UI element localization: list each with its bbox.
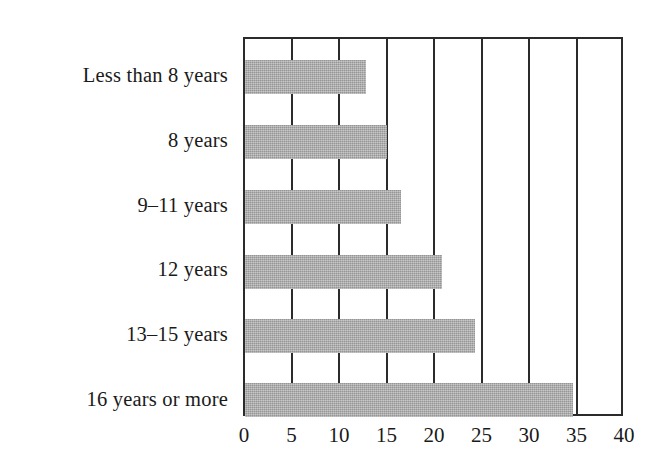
x-tick-label-8: 40 <box>604 425 644 446</box>
gridline-20 <box>433 39 435 414</box>
bar-16-years-or-more <box>245 383 573 417</box>
x-tick-label-4: 20 <box>414 425 454 446</box>
gridline-10 <box>338 39 340 414</box>
x-tick-label-3: 15 <box>367 425 407 446</box>
gridline-30 <box>528 39 530 414</box>
category-label-5: 16 years or more <box>8 389 228 410</box>
x-tick-label-2: 10 <box>319 425 359 446</box>
x-tick-label-6: 30 <box>509 425 549 446</box>
category-label-0: Less than 8 years <box>8 65 228 86</box>
bar-less-than-8-years <box>245 60 366 94</box>
category-label-1: 8 years <box>8 130 228 151</box>
x-tick-label-0: 0 <box>224 425 264 446</box>
bar-9-11-years <box>245 190 401 224</box>
category-label-4: 13–15 years <box>8 324 228 345</box>
bar-8-years <box>245 125 387 159</box>
gridline-25 <box>481 39 483 414</box>
x-tick-label-5: 25 <box>462 425 502 446</box>
bar-13-15-years <box>245 319 475 353</box>
gridline-35 <box>576 39 578 414</box>
plot-area <box>243 37 623 416</box>
x-tick-label-1: 5 <box>272 425 312 446</box>
gridline-15 <box>386 39 388 414</box>
gridline-5 <box>291 39 293 414</box>
horizontal-bar-chart: Less than 8 years 8 years 9–11 years 12 … <box>0 0 663 474</box>
bar-12-years <box>245 255 442 289</box>
category-label-2: 9–11 years <box>8 195 228 216</box>
x-tick-label-7: 35 <box>557 425 597 446</box>
category-label-3: 12 years <box>8 259 228 280</box>
